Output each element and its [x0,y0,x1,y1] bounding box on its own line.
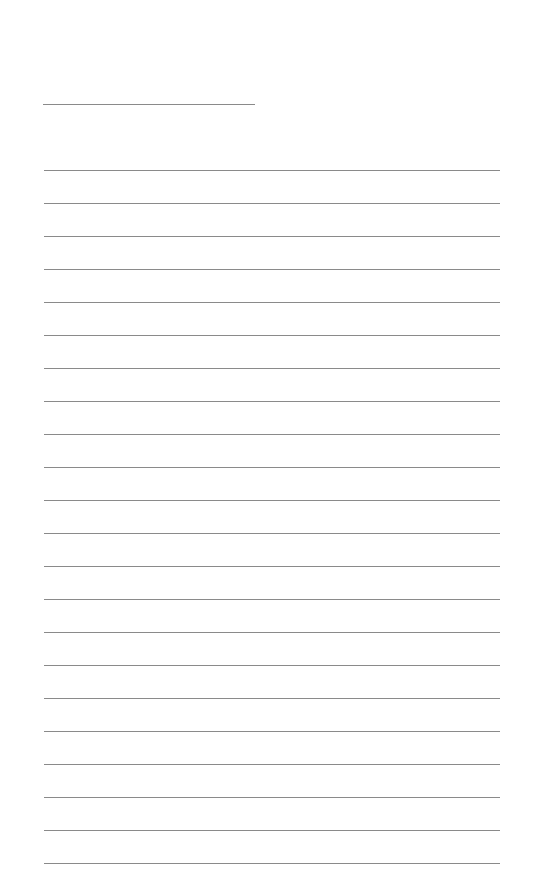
writing-line [44,269,500,270]
writing-line [44,566,500,567]
header-name-line [43,104,255,105]
writing-line [44,401,500,402]
writing-line [44,500,500,501]
writing-line [44,764,500,765]
writing-line [44,830,500,831]
writing-line [44,863,500,864]
writing-line [44,698,500,699]
writing-line [44,203,500,204]
writing-line [44,632,500,633]
writing-line [44,170,500,171]
writing-line [44,302,500,303]
writing-line [44,599,500,600]
lined-paper-page [0,0,536,893]
writing-line [44,533,500,534]
writing-line [44,467,500,468]
writing-line [44,335,500,336]
writing-line [44,434,500,435]
writing-line [44,236,500,237]
writing-line [44,665,500,666]
writing-line [44,368,500,369]
writing-line [44,731,500,732]
writing-line [44,797,500,798]
